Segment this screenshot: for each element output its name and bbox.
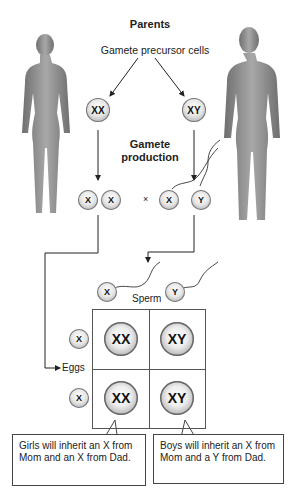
father-precursor-cell: XY [182,98,206,122]
parents-title: Parents [110,18,190,30]
egg-gamete-1: X [78,190,98,210]
gamete-production-label: Gamete production [112,138,188,164]
egg-gamete-2: X [101,190,121,210]
precursor-label: Gamete precursor cells [90,44,220,56]
sperm-header-y: Y [165,282,185,302]
sperm-gamete-y: Y [191,190,211,210]
egg-header-1: X [69,329,89,349]
punnett-cell-r2c2: XY [160,381,194,415]
cross-symbol: × [143,194,148,204]
sperm-gamete-x: X [159,190,179,210]
punnett-cell-r1c1: XX [104,322,138,356]
punnett-cell-r2c1: XX [104,381,138,415]
gamete-production-line1: Gamete [112,138,188,151]
punnett-square: XX XY XX XY [92,309,206,429]
father-figure-icon [224,27,280,220]
girls-callout: Girls will inherit an X from Mom and an … [12,434,146,486]
mother-precursor-cell: XX [86,98,110,122]
sperm-header-x: X [97,282,117,302]
mother-figure-icon [22,34,70,213]
eggs-label: Eggs [62,362,85,373]
boys-callout: Boys will inherit an X from Mom and a Y … [153,434,284,484]
gamete-production-line2: production [112,151,188,164]
sperm-label: Sperm [132,293,161,304]
egg-header-2: X [69,388,89,408]
grid-divider-horizontal [93,369,205,370]
punnett-cell-r1c2: XY [160,322,194,356]
